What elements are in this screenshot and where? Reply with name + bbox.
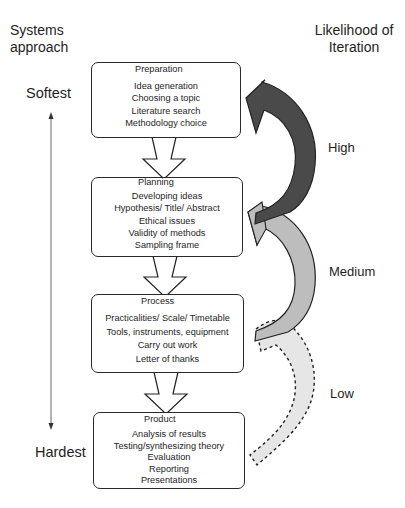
stage-item: Carry out work	[92, 339, 243, 353]
stage-item: Evaluation	[94, 452, 244, 464]
stage-item: Developing ideas	[92, 190, 242, 202]
stage-item: Literature search	[92, 105, 240, 117]
stage-item: Idea generation	[92, 80, 240, 92]
stage-item: Hypothesis/ Title/ Abstract	[92, 202, 242, 214]
stage-title: Process	[92, 296, 243, 307]
stage-item: Sampling frame	[92, 239, 242, 251]
stage-product: Product Analysis of results Testing/synt…	[93, 412, 245, 489]
stage-item: Practicalities/ Scale/ Timetable	[92, 312, 243, 326]
iteration-level-high: High	[328, 140, 355, 155]
stage-item: Reporting	[94, 464, 244, 476]
stage-planning: Planning Developing ideas Hypothesis/ Ti…	[91, 177, 243, 257]
stage-item: Ethical issues	[92, 215, 242, 227]
stage-preparation: Preparation Idea generation Choosing a t…	[91, 62, 241, 138]
stage-item-list: Practicalities/ Scale/ Timetable Tools, …	[92, 312, 243, 366]
stage-title: Planning	[92, 177, 242, 188]
flow-arrow-preparation-to-planning	[143, 137, 185, 179]
stage-item: Choosing a topic	[92, 92, 240, 104]
iteration-level-low: Low	[330, 386, 354, 401]
stage-item-list: Idea generation Choosing a topic Literat…	[92, 80, 240, 129]
stage-title: Preparation	[92, 64, 240, 75]
stage-item: Presentations	[94, 475, 244, 487]
softest-hardest-scale-arrow	[49, 112, 54, 430]
stage-item: Testing/synthesizing theory	[94, 441, 244, 453]
stage-item: Methodology choice	[92, 117, 240, 129]
flow-arrow-planning-to-process	[144, 256, 186, 297]
stage-item: Letter of thanks	[92, 353, 243, 367]
iteration-level-medium: Medium	[329, 264, 375, 279]
iteration-arrow-high	[246, 80, 315, 224]
stage-item: Tools, instruments, equipment	[92, 326, 243, 340]
flow-arrow-process-to-product	[145, 372, 187, 414]
stage-item: Validity of methods	[92, 227, 242, 239]
stage-item-list: Analysis of results Testing/synthesizing…	[94, 429, 244, 487]
iteration-arrow-low	[250, 320, 314, 465]
stage-title: Product	[94, 414, 244, 425]
stage-item: Analysis of results	[94, 429, 244, 441]
stage-process: Process Practicalities/ Scale/ Timetable…	[91, 294, 244, 373]
stage-item-list: Developing ideas Hypothesis/ Title/ Abst…	[92, 190, 242, 251]
